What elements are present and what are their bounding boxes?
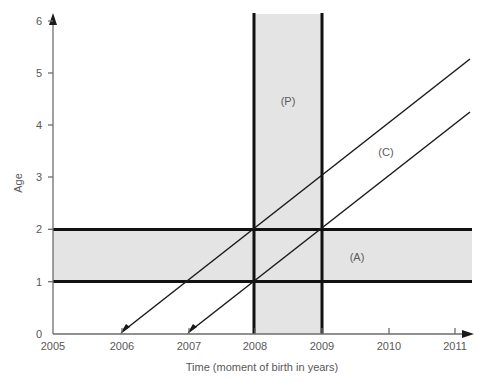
cohort-region-label: (C)	[378, 146, 393, 158]
period-band-fill	[253, 14, 323, 334]
y-axis-arrowhead	[49, 13, 57, 25]
x-tick-label-2008: 2008	[243, 340, 267, 352]
y-tick-labels: 0 1 2 3 4 5 6	[36, 15, 42, 340]
y-tick-label-6: 6	[36, 15, 42, 27]
x-tick-label-2007: 2007	[177, 340, 201, 352]
shaded-bands	[53, 13, 472, 334]
x-axis-title: Time (moment of birth in years)	[186, 361, 338, 373]
chart-container: 0 1 2 3 4 5 6 2005 2006 2007 2008 2009 2…	[0, 0, 485, 382]
x-tick-label-2005: 2005	[41, 340, 65, 352]
age-region-label: (A)	[350, 251, 365, 263]
x-tick-labels: 2005 2006 2007 2008 2009 2010 2011	[41, 340, 467, 352]
x-tick-label-2011: 2011	[443, 340, 467, 352]
y-tick-label-2: 2	[36, 223, 42, 235]
x-axis-arrowhead	[462, 330, 474, 338]
y-tick-label-3: 3	[36, 171, 42, 183]
y-tick-label-1: 1	[36, 276, 42, 288]
x-tick-label-2006: 2006	[110, 340, 134, 352]
y-tick-label-4: 4	[36, 119, 42, 131]
cohort-line-lower	[189, 112, 470, 332]
y-axis-title: Age	[12, 173, 24, 193]
period-region-label: (P)	[281, 95, 296, 107]
lexis-diagram: 0 1 2 3 4 5 6 2005 2006 2007 2008 2009 2…	[0, 0, 485, 382]
age-band-fill	[53, 229, 472, 281]
x-tick-label-2009: 2009	[310, 340, 334, 352]
y-tick-label-0: 0	[36, 328, 42, 340]
x-tick-label-2010: 2010	[377, 340, 401, 352]
y-tick-label-5: 5	[36, 67, 42, 79]
